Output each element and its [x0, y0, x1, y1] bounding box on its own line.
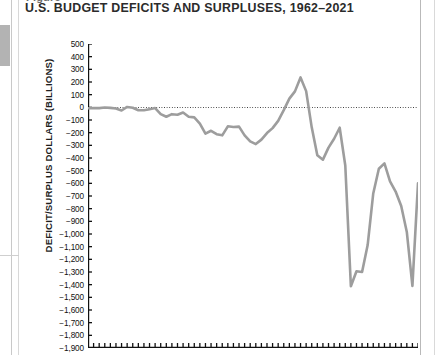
page-title: U.S. BUDGET DEFICITS AND SURPLUSES, 1962…: [25, 1, 354, 15]
y-axis-tick-label: −1,300: [59, 268, 84, 277]
y-axis-tick-label: −200: [66, 128, 84, 137]
page-left-tab-marker: [0, 25, 10, 66]
y-axis-tick-label: −400: [66, 154, 84, 163]
y-axis-tick-label: 100: [71, 90, 84, 99]
y-axis-tick-label: −300: [66, 141, 84, 150]
y-axis-tick-label: 300: [71, 65, 84, 74]
page-left-inner-rule: [18, 0, 19, 355]
y-axis-tick-label: 400: [71, 52, 84, 61]
chart-plot-area: [88, 44, 418, 348]
y-axis-tick-label: −100: [66, 116, 84, 125]
figure-page: Figure U.S. BUDGET DEFICITS AND SURPLUSE…: [0, 0, 435, 355]
page-left-rule: [11, 0, 12, 355]
y-axis-tick-label: 500: [71, 40, 84, 49]
page-right-rule: [420, 0, 421, 355]
y-axis-tick-label: −1,100: [59, 242, 84, 251]
page-left-box-divider: [0, 255, 19, 256]
y-axis-tick-label: −1,800: [59, 331, 84, 340]
y-axis-tick-label: −1,000: [59, 230, 84, 239]
y-axis-tick-label: −900: [66, 217, 84, 226]
y-axis-tick-label: −500: [66, 166, 84, 175]
y-axis-tick-label: −1,900: [59, 344, 84, 353]
title-divider: [26, 27, 412, 29]
y-axis-tick-label: 200: [71, 78, 84, 87]
y-axis-tick-labels: 5004003002001000−100−200−300−400−500−600…: [40, 44, 84, 348]
y-axis-tick-label: −1,600: [59, 306, 84, 315]
y-axis-tick-label: −1,700: [59, 318, 84, 327]
deficit-surplus-line-series: [88, 44, 418, 348]
y-axis-tick-label: −1,500: [59, 293, 84, 302]
y-axis-tick-label: −1,400: [59, 280, 84, 289]
y-axis-tick-label: −800: [66, 204, 84, 213]
y-axis-tick-label: −600: [66, 179, 84, 188]
y-axis-tick-label: 0: [80, 103, 84, 112]
y-axis-tick-label: −1,200: [59, 255, 84, 264]
y-axis-tick-label: −700: [66, 192, 84, 201]
